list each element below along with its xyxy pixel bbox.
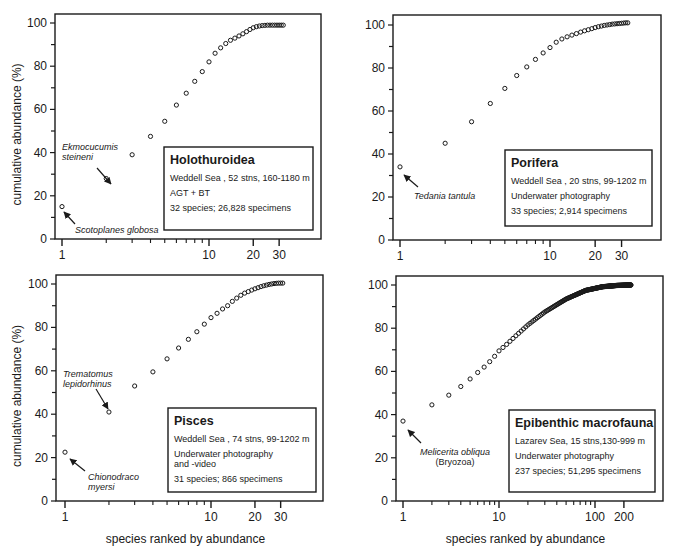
data-series (398, 21, 630, 169)
info-box-title: Epibenthic macrofauna (515, 416, 654, 430)
y-tick-label: 20 (375, 451, 389, 465)
data-point (488, 101, 492, 105)
info-box-line: AGT + BT (170, 188, 211, 198)
data-point (503, 86, 507, 90)
x-tick-label: 10 (202, 248, 216, 262)
data-point (226, 304, 230, 308)
species-annotation: Trematomuslepidorhinus (63, 369, 113, 409)
data-point (447, 393, 451, 397)
x-tick-label: 10 (204, 510, 218, 524)
species-label: Ekmocucumis (62, 142, 119, 152)
panel-porifera: 0204060801001102030PoriferaWeddell Sea ,… (365, 15, 661, 263)
y-axis-title: cumulative abundance (%) (10, 325, 24, 467)
data-point (560, 37, 564, 41)
y-tick-label: 40 (372, 147, 386, 161)
x-tick-label: 30 (272, 248, 286, 262)
species-annotation: Melicerita obliqua(Bryozoa) (408, 430, 490, 467)
data-point (60, 205, 64, 209)
y-tick-label: 80 (35, 320, 49, 334)
x-tick-label: 30 (274, 510, 288, 524)
x-tick-label: 10 (543, 249, 557, 263)
data-point (174, 103, 178, 107)
info-box-line: Weddell Sea , 52 stns, 160-1180 m (170, 173, 310, 183)
data-point (541, 51, 545, 55)
data-point (130, 153, 134, 157)
data-point (554, 40, 558, 44)
info-box-line: 31 species; 866 specimens (174, 474, 283, 484)
info-box-line: 237 species; 51,295 specimens (515, 466, 642, 476)
x-tick-label: 1 (400, 510, 407, 524)
info-box-title: Pisces (174, 414, 214, 428)
data-point (459, 384, 463, 388)
y-tick-label: 100 (28, 277, 48, 291)
info-box-line: Underwater photography (511, 191, 611, 201)
y-tick-label: 40 (35, 407, 49, 421)
y-tick-label: 0 (381, 494, 388, 508)
data-point (202, 322, 206, 326)
data-point (213, 51, 217, 55)
x-axis-title: species ranked by abundance (106, 532, 266, 546)
panel-pisces: 0204060801001102030cumulative abundance … (10, 275, 323, 546)
data-point (163, 119, 167, 123)
species-label: (Bryozoa) (435, 457, 474, 467)
x-tick-label: 20 (248, 510, 262, 524)
info-box: Epibenthic macrofaunaLazarev Sea, 15 stn… (509, 410, 655, 492)
species-label: Tedania tantula (414, 191, 475, 201)
x-tick-label: 10 (492, 510, 506, 524)
data-point (493, 354, 497, 358)
y-tick-label: 80 (375, 321, 389, 335)
x-axis-title: species ranked by abundance (446, 532, 606, 546)
info-box-title: Holothuroidea (170, 153, 256, 167)
species-label: Chionodraco (88, 472, 139, 482)
y-tick-label: 100 (27, 16, 47, 30)
data-point (398, 165, 402, 169)
arrow-icon (64, 212, 75, 224)
x-tick-label: 20 (588, 249, 602, 263)
data-point (151, 370, 155, 374)
y-tick-label: 60 (372, 104, 386, 118)
y-tick-label: 100 (365, 18, 385, 32)
data-point (482, 365, 486, 369)
data-point (195, 330, 199, 334)
x-tick-label: 1 (62, 510, 69, 524)
info-box-line: 32 species; 26,828 specimens (170, 203, 292, 213)
y-tick-label: 60 (34, 102, 48, 116)
data-point (565, 35, 569, 39)
y-tick-label: 40 (34, 146, 48, 160)
y-tick-label: 0 (40, 232, 47, 246)
data-point (525, 65, 529, 69)
info-box-title: Porifera (511, 156, 559, 170)
x-tick-label: 1 (397, 249, 404, 263)
figure-canvas: 0204060801001102030cumulative abundance … (0, 0, 677, 554)
data-point (184, 91, 188, 95)
x-tick-label: 200 (614, 510, 634, 524)
data-point (177, 346, 181, 350)
data-point (186, 337, 190, 341)
y-tick-label: 0 (378, 233, 385, 247)
data-point (574, 31, 578, 35)
y-tick-label: 80 (372, 61, 386, 75)
data-point (533, 57, 537, 61)
species-label: steineni (62, 152, 94, 162)
x-tick-label: 100 (585, 510, 605, 524)
data-point (193, 79, 197, 83)
data-point (401, 419, 405, 423)
species-label: Scotoplanes globosa (75, 225, 159, 235)
species-annotation: Tedania tantula (404, 175, 475, 201)
arrow-icon (404, 175, 418, 187)
y-axis-title: cumulative abundance (%) (10, 63, 24, 205)
data-point (220, 307, 224, 311)
data-point (209, 316, 213, 320)
info-box-line: Lazarev Sea, 15 stns,130-999 m (515, 436, 645, 446)
species-label: myersi (88, 482, 115, 492)
data-point (219, 46, 223, 50)
panel-epibenthic: 020406080100110100200species ranked by a… (368, 276, 663, 546)
data-point (468, 377, 472, 381)
info-box-line: Underwater photography (515, 451, 615, 461)
data-point (233, 36, 237, 40)
species-label: lepidorhinus (63, 379, 112, 389)
arrow-icon (97, 168, 111, 184)
y-tick-label: 80 (34, 59, 48, 73)
data-point (548, 45, 552, 49)
info-box-line: Underwater photography (174, 449, 274, 459)
